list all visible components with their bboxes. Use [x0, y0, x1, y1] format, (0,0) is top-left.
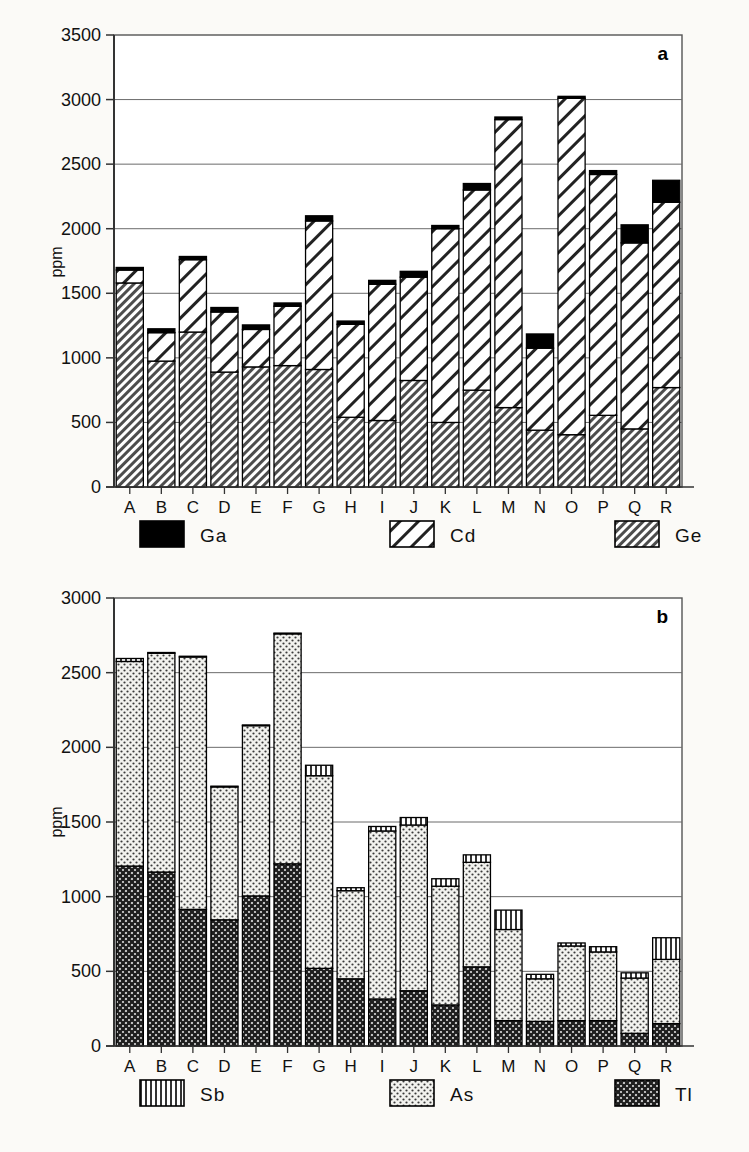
bar-group [653, 938, 680, 1046]
bar-group [369, 280, 396, 487]
y-tick-label: 1000 [61, 348, 101, 368]
y-tick-label: 500 [71, 961, 101, 981]
bar-segment-cd [179, 260, 206, 332]
legend-item: As [390, 1080, 474, 1106]
bar-segment-ge [400, 380, 427, 487]
bar-segment-as [621, 978, 648, 1033]
bar-segment-ge [211, 372, 238, 487]
bar-segment-sb [432, 879, 459, 886]
bar-segment-ge [369, 420, 396, 487]
bar-segment-ge [337, 417, 364, 487]
legend-label-ge: Ge [675, 525, 702, 546]
x-category-label: K [440, 498, 452, 517]
x-category-label: D [218, 1057, 230, 1076]
x-category-label: H [345, 498, 357, 517]
bar-segment-sb [306, 765, 333, 775]
x-category-label: O [565, 498, 578, 517]
y-tick-label: 2500 [61, 663, 101, 683]
panel-b: 050010001500200025003000ppmABCDEFGHIJKLM… [48, 588, 694, 1106]
bar-segment-tl [526, 1021, 553, 1046]
bar-segment-cd [463, 190, 490, 390]
stacked-bar-figure: 0500100015002000250030003500ppmABCDEFGHI… [0, 0, 749, 1152]
bar-segment-ga [116, 267, 143, 270]
bar-segment-ge [242, 367, 269, 487]
x-category-label: Q [628, 1057, 641, 1076]
bar-segment-as [211, 787, 238, 920]
bar-segment-ge [590, 415, 617, 487]
legend-item: Ge [615, 521, 702, 547]
bar-group [495, 910, 522, 1046]
bar-segment-sb [369, 826, 396, 830]
bar-group [116, 267, 143, 487]
legend-swatch-ge [615, 521, 659, 547]
x-category-label: Q [628, 498, 641, 517]
bar-group [179, 256, 206, 487]
bar-segment-as [369, 831, 396, 999]
bar-group [432, 879, 459, 1046]
bar-segment-cd [653, 202, 680, 387]
bar-segment-sb [116, 658, 143, 661]
x-category-label: E [250, 1057, 261, 1076]
y-tick-label: 1000 [61, 887, 101, 907]
bar-group [653, 180, 680, 487]
bar-segment-tl [179, 909, 206, 1046]
bar-segment-as [495, 930, 522, 1021]
legend-label-cd: Cd [450, 525, 476, 546]
bar-segment-as [179, 657, 206, 909]
x-category-label: B [156, 498, 167, 517]
bar-segment-cd [211, 312, 238, 372]
legend-label-sb: Sb [200, 1084, 225, 1105]
y-tick-label: 500 [71, 412, 101, 432]
bar-segment-ga [653, 180, 680, 202]
bar-segment-ga [495, 117, 522, 120]
bar-segment-ga [274, 303, 301, 306]
bar-segment-as [306, 776, 333, 969]
x-category-label: G [312, 498, 325, 517]
bar-segment-cd [306, 221, 333, 370]
bar-group [306, 216, 333, 487]
x-category-label: M [501, 1057, 515, 1076]
bar-group [463, 184, 490, 487]
bar-segment-ga [432, 225, 459, 228]
y-axis-title: ppm [48, 806, 65, 837]
bar-group [400, 271, 427, 487]
bar-segment-cd [116, 270, 143, 283]
bar-group [558, 96, 585, 487]
bar-segment-sb [526, 974, 553, 978]
x-category-label: A [124, 498, 136, 517]
bar-segment-cd [337, 324, 364, 417]
x-category-label: A [124, 1057, 136, 1076]
bar-segment-tl [463, 967, 490, 1046]
bar-segment-tl [242, 896, 269, 1046]
bar-segment-ga [148, 329, 175, 333]
y-axis-title: ppm [48, 246, 65, 277]
bar-segment-as [400, 825, 427, 991]
bar-segment-as [274, 634, 301, 864]
bar-segment-as [242, 726, 269, 896]
bar-group [526, 974, 553, 1046]
bar-segment-sb [148, 653, 175, 654]
bar-segment-tl [400, 991, 427, 1046]
bar-group [495, 117, 522, 487]
bar-segment-as [337, 891, 364, 979]
bar-group [274, 633, 301, 1046]
y-tick-label: 1500 [61, 283, 101, 303]
bar-group [337, 321, 364, 487]
bar-segment-ga [526, 334, 553, 348]
bar-segment-cd [369, 284, 396, 420]
bar-segment-ge [432, 422, 459, 487]
x-category-label: I [380, 1057, 385, 1076]
bar-segment-as [526, 979, 553, 1022]
bar-segment-tl [148, 872, 175, 1046]
legend-item: Sb [140, 1080, 225, 1106]
y-tick-label: 0 [91, 1036, 101, 1056]
bar-segment-sb [242, 725, 269, 726]
bar-segment-ga [337, 321, 364, 324]
bar-group [526, 334, 553, 487]
bar-group [306, 765, 333, 1046]
bar-segment-sb [400, 818, 427, 825]
bar-group [590, 947, 617, 1046]
legend-label-ga: Ga [200, 525, 227, 546]
bar-segment-ge [558, 435, 585, 487]
x-category-label: J [410, 498, 419, 517]
